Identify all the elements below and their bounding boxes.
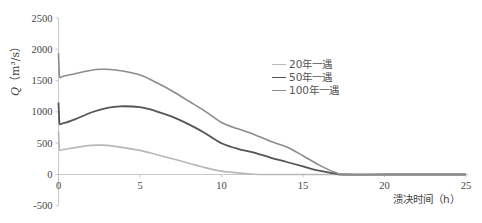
y-tick-label: 2500 <box>32 13 53 24</box>
y-axis: -50005001000150020002500 <box>32 13 59 212</box>
y-axis-unit: （m³/s） <box>9 41 22 87</box>
legend-label: 20年一遇 <box>289 58 332 71</box>
legend-swatch <box>272 90 286 91</box>
x-tick-label: 15 <box>298 180 309 191</box>
series-line-100yr <box>59 53 467 175</box>
y-axis-symbol: Q <box>9 87 22 96</box>
x-axis: 0510152025 <box>56 175 471 191</box>
y-tick-label: 1000 <box>32 106 53 117</box>
series-layer <box>59 53 467 175</box>
x-tick-label: 25 <box>461 180 472 191</box>
x-tick-label: 10 <box>216 180 227 191</box>
legend-swatch <box>272 64 286 65</box>
line-chart: -50005001000150020002500 0510152025 <box>0 0 482 223</box>
y-tick-label: 0 <box>47 169 52 180</box>
y-tick-label: -500 <box>33 200 52 211</box>
legend-item-20yr: 20年一遇 <box>272 58 339 71</box>
legend-swatch <box>272 77 286 78</box>
legend-label: 50年一遇 <box>289 71 332 84</box>
legend-item-50yr: 50年一遇 <box>272 71 339 84</box>
y-tick-label: 1500 <box>32 75 53 86</box>
legend-item-100yr: 100年一遇 <box>272 84 339 97</box>
y-tick-label: 2000 <box>32 44 53 55</box>
x-tick-label: 5 <box>137 180 142 191</box>
legend: 20年一遇 50年一遇 100年一遇 <box>272 58 339 97</box>
y-axis-title: Q（m³/s） <box>6 41 22 96</box>
x-axis-title: 溃决时间（h） <box>393 191 460 206</box>
y-tick-label: 500 <box>37 138 53 149</box>
x-tick-label: 20 <box>379 180 390 191</box>
x-tick-label: 0 <box>56 180 61 191</box>
legend-label: 100年一遇 <box>289 84 339 97</box>
